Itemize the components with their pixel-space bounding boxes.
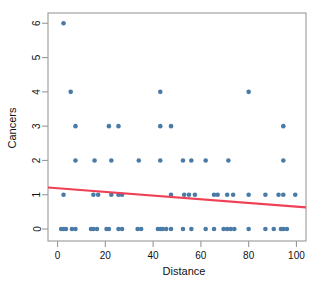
data-point bbox=[203, 227, 208, 232]
data-point bbox=[95, 227, 100, 232]
data-point bbox=[116, 124, 121, 129]
data-point bbox=[96, 192, 101, 197]
data-point bbox=[246, 227, 251, 232]
data-point bbox=[73, 227, 78, 232]
data-point bbox=[164, 227, 169, 232]
x-tick-label: 100 bbox=[288, 250, 305, 261]
data-point bbox=[263, 227, 268, 232]
y-tick-label: 0 bbox=[32, 226, 43, 232]
data-point bbox=[189, 227, 194, 232]
y-axis-label: Cancers bbox=[6, 107, 18, 148]
data-point bbox=[68, 90, 73, 95]
data-point bbox=[215, 192, 220, 197]
data-point bbox=[231, 192, 236, 197]
data-point bbox=[285, 227, 290, 232]
data-point bbox=[232, 227, 237, 232]
data-point bbox=[158, 124, 163, 129]
data-point bbox=[169, 227, 174, 232]
data-point bbox=[187, 192, 192, 197]
data-point bbox=[91, 192, 96, 197]
data-point bbox=[61, 21, 66, 26]
data-point bbox=[136, 158, 141, 163]
data-point bbox=[73, 124, 78, 129]
data-point bbox=[182, 192, 187, 197]
y-tick-label: 3 bbox=[31, 123, 42, 129]
y-tick-label: 5 bbox=[32, 54, 43, 60]
data-point bbox=[158, 158, 163, 163]
data-point bbox=[107, 227, 112, 232]
x-axis-label: Distance bbox=[163, 265, 206, 277]
data-point bbox=[263, 192, 268, 197]
data-point bbox=[107, 124, 112, 129]
chart-canvas: 020406080100 0123456 Distance Cancers bbox=[0, 0, 320, 293]
data-point bbox=[281, 192, 286, 197]
data-point bbox=[61, 192, 66, 197]
data-point bbox=[189, 158, 194, 163]
data-point bbox=[246, 192, 251, 197]
x-tick-label: 60 bbox=[195, 250, 207, 261]
data-point bbox=[139, 227, 144, 232]
x-tick-label: 0 bbox=[55, 250, 61, 261]
x-tick-label: 20 bbox=[100, 250, 112, 261]
y-tick-label: 6 bbox=[32, 20, 43, 26]
data-point bbox=[271, 227, 276, 232]
data-point bbox=[109, 158, 114, 163]
data-point bbox=[64, 227, 69, 232]
data-point bbox=[181, 158, 186, 163]
y-tick-label: 4 bbox=[32, 89, 43, 95]
data-point bbox=[92, 158, 97, 163]
data-point bbox=[212, 227, 217, 232]
data-point bbox=[73, 158, 78, 163]
data-point bbox=[225, 192, 230, 197]
data-point bbox=[158, 90, 163, 95]
y-tick-label: 1 bbox=[32, 191, 43, 197]
data-point bbox=[181, 227, 186, 232]
data-point bbox=[120, 227, 125, 232]
data-point bbox=[281, 124, 286, 129]
x-tick-label: 80 bbox=[243, 250, 255, 261]
data-point bbox=[193, 192, 198, 197]
data-point bbox=[293, 192, 298, 197]
data-point bbox=[276, 192, 281, 197]
data-point bbox=[169, 124, 174, 129]
data-point bbox=[281, 158, 286, 163]
data-point bbox=[226, 158, 231, 163]
scatter-plot-figure: 020406080100 0123456 Distance Cancers bbox=[0, 0, 320, 293]
y-tick-label: 2 bbox=[32, 157, 43, 163]
data-point bbox=[203, 158, 208, 163]
data-point bbox=[246, 90, 251, 95]
x-tick-label: 40 bbox=[148, 250, 160, 261]
